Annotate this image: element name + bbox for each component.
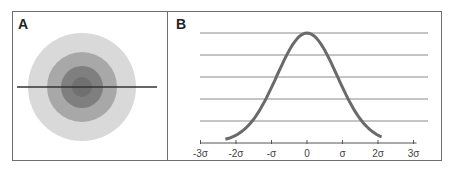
gaussian-curve (225, 33, 381, 139)
x-tick-label: 2σ (372, 148, 385, 159)
figure-canvas: -3σ-2σ-σ0σ2σ3σ (0, 0, 451, 171)
x-tick-label: -3σ (193, 148, 209, 159)
panel-b-x-axis: -3σ-2σ-σ0σ2σ3σ (193, 140, 420, 159)
x-tick-label: 3σ (408, 148, 421, 159)
x-tick-label: σ (339, 148, 346, 159)
x-tick-label: -σ (267, 148, 277, 159)
x-tick-label: 0 (304, 148, 310, 159)
x-tick-label: -2σ (228, 148, 244, 159)
panel-b-gridlines (200, 33, 428, 121)
